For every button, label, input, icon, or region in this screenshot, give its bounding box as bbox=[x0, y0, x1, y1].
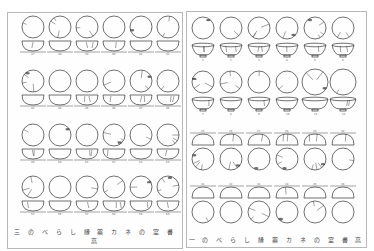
svg-text:54: 54 bbox=[166, 161, 170, 164]
bowl-profile: 53 bbox=[128, 149, 154, 164]
bowl-profile: 6 bbox=[332, 43, 354, 62]
bowl-profile: 29 bbox=[302, 130, 328, 145]
svg-text:59: 59 bbox=[139, 213, 143, 216]
bowl-top-view bbox=[304, 17, 326, 39]
bowl-top-view bbox=[76, 16, 98, 38]
svg-text:39: 39 bbox=[85, 53, 89, 56]
svg-text:41: 41 bbox=[139, 53, 143, 56]
bowl-profile: 4 bbox=[276, 43, 298, 62]
bowl-top-view bbox=[332, 148, 354, 170]
bowl-top-view bbox=[157, 176, 179, 198]
svg-text:40: 40 bbox=[112, 53, 116, 56]
svg-text:8: 8 bbox=[230, 113, 232, 116]
bowl-top-view bbox=[192, 71, 214, 93]
svg-text:12: 12 bbox=[342, 113, 346, 116]
svg-text:28: 28 bbox=[285, 130, 289, 133]
svg-text:1: 1 bbox=[202, 59, 204, 62]
right-page: 123456789101112252627282930313233343536 … bbox=[186, 11, 367, 248]
svg-text:58: 58 bbox=[112, 213, 116, 216]
bowl-top-view bbox=[157, 16, 179, 38]
bowl-top-view bbox=[332, 17, 354, 39]
svg-text:48: 48 bbox=[166, 107, 170, 110]
bowl-profile: 9 bbox=[248, 97, 270, 116]
bowl-top-view bbox=[192, 148, 214, 170]
bowl-top-view bbox=[276, 17, 298, 39]
svg-text:43: 43 bbox=[31, 107, 35, 110]
bowl-top-view bbox=[220, 17, 242, 39]
svg-text:2: 2 bbox=[230, 59, 232, 62]
bowl-top-view bbox=[103, 70, 125, 92]
svg-text:60: 60 bbox=[166, 213, 170, 216]
bowl-top-view bbox=[49, 176, 71, 198]
svg-text:51: 51 bbox=[85, 161, 89, 164]
bowl-top-view bbox=[304, 148, 326, 170]
svg-text:46: 46 bbox=[112, 107, 116, 110]
bowl-top-view bbox=[49, 16, 71, 38]
bowl-profile: 46 bbox=[101, 95, 127, 110]
svg-text:49: 49 bbox=[31, 161, 35, 164]
bowl-profile: 42 bbox=[155, 41, 181, 56]
svg-text:42: 42 bbox=[166, 53, 170, 56]
bowl-profile: 5 bbox=[304, 43, 326, 62]
right-bowl-plate: 123456789101112252627282930313233343536 bbox=[187, 12, 368, 249]
bowl-profile: 32 bbox=[218, 183, 244, 198]
bowl-top-view bbox=[192, 201, 214, 223]
svg-text:11: 11 bbox=[314, 113, 318, 116]
bowl-profile: 50 bbox=[47, 149, 73, 164]
bowl-top-view bbox=[22, 16, 44, 38]
bowl-top-view bbox=[157, 124, 179, 146]
bowl-profile: 30 bbox=[330, 130, 356, 145]
svg-text:45: 45 bbox=[85, 107, 89, 110]
bowl-top-view bbox=[248, 17, 270, 39]
svg-text:52: 52 bbox=[112, 161, 116, 164]
bowl-top-view bbox=[22, 176, 44, 198]
bowl-profile: 33 bbox=[246, 183, 272, 198]
bowl-profile: 57 bbox=[74, 201, 100, 216]
bowl-top-view bbox=[248, 201, 270, 223]
bowl-profile: 11 bbox=[302, 97, 328, 116]
bowl-profile: 25 bbox=[190, 130, 216, 145]
bowl-top-view bbox=[76, 70, 98, 92]
bowl-profile: 40 bbox=[101, 41, 127, 56]
bowl-top-view bbox=[103, 16, 125, 38]
svg-text:47: 47 bbox=[139, 107, 143, 110]
bowl-profile: 44 bbox=[47, 95, 73, 110]
bowl-profile: 49 bbox=[20, 149, 46, 164]
bowl-profile: 12 bbox=[330, 97, 356, 116]
bowl-top-view bbox=[103, 176, 125, 198]
svg-text:3: 3 bbox=[258, 59, 260, 62]
bowl-top-view bbox=[192, 17, 214, 39]
svg-text:53: 53 bbox=[139, 161, 143, 164]
svg-text:30: 30 bbox=[341, 130, 345, 133]
bowl-profile: 35 bbox=[302, 183, 328, 198]
bowl-profile: 55 bbox=[20, 201, 46, 216]
bowl-top-view bbox=[130, 70, 152, 92]
bowl-top-view bbox=[76, 176, 98, 198]
bowl-top-view bbox=[22, 124, 44, 146]
svg-text:5: 5 bbox=[314, 59, 316, 62]
bowl-top-view bbox=[302, 69, 328, 95]
bowl-top-view bbox=[220, 201, 242, 223]
bowl-profile: 59 bbox=[128, 201, 154, 216]
bowl-profile: 58 bbox=[101, 201, 127, 216]
bowl-profile: 48 bbox=[155, 95, 181, 110]
bowl-top-view bbox=[22, 70, 44, 92]
svg-text:10: 10 bbox=[286, 113, 290, 116]
bowl-profile: 38 bbox=[47, 41, 73, 56]
bowl-profile: 2 bbox=[220, 43, 242, 62]
bowl-profile: 31 bbox=[190, 183, 216, 198]
svg-text:57: 57 bbox=[85, 213, 89, 216]
left-bowl-plate: 3738394041424344454647484950515253545556… bbox=[8, 13, 184, 250]
bowl-profile: 1 bbox=[192, 43, 214, 62]
bowl-profile: 45 bbox=[74, 95, 100, 110]
bowl-profile: 43 bbox=[20, 95, 46, 110]
svg-text:27: 27 bbox=[257, 130, 261, 133]
bowl-profile: 41 bbox=[128, 41, 154, 56]
svg-text:44: 44 bbox=[58, 107, 62, 110]
svg-text:34: 34 bbox=[285, 183, 289, 186]
bowl-profile: 39 bbox=[74, 41, 100, 56]
bowl-profile: 27 bbox=[246, 130, 272, 145]
bowl-top-view bbox=[49, 124, 71, 146]
svg-text:56: 56 bbox=[58, 213, 62, 216]
right-page-caption: 一 の べ ら し 縁 薬 カ ネ の 室 書 高 bbox=[187, 235, 366, 244]
